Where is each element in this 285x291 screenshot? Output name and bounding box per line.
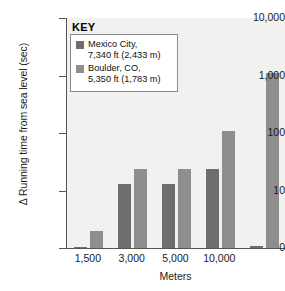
x-tick-label: 3,000 — [119, 252, 145, 264]
legend-item-boulder: Boulder, CO, 5,350 ft (1,783 m) — [76, 63, 173, 84]
x-axis-title: Meters — [66, 270, 285, 282]
y-tick-label: 100 — [231, 126, 285, 138]
y-tick-label: 10 — [231, 184, 285, 196]
y-tick-mark — [59, 248, 66, 249]
legend-item-mexico-city: Mexico City, 7,340 ft (2,433 m) — [76, 39, 173, 60]
bar — [266, 73, 279, 248]
legend: Mexico City, 7,340 ft (2,433 m) Boulder,… — [70, 34, 178, 92]
bar — [90, 231, 103, 248]
y-tick-mark — [59, 18, 66, 19]
y-tick-label: 0 — [231, 241, 285, 253]
bar — [118, 184, 131, 248]
legend-label-line2: 5,350 ft (1,783 m) — [88, 74, 161, 84]
legend-title: KEY — [72, 21, 95, 33]
legend-label-line2: 7,340 ft (2,433 m) — [88, 50, 161, 60]
y-tick-label: 1,000 — [231, 69, 285, 81]
legend-swatch-icon-boulder — [76, 65, 84, 73]
x-tick-label: 1,500 — [75, 252, 101, 264]
legend-swatch-icon-mexico-city — [76, 41, 84, 49]
y-tick-label: 10,000 — [231, 11, 285, 23]
bar — [206, 169, 219, 248]
y-tick-mark — [59, 76, 66, 77]
legend-label-boulder: Boulder, CO, 5,350 ft (1,783 m) — [88, 63, 161, 84]
x-tick-label: 5,000 — [162, 252, 188, 264]
y-axis-title: Δ Running time from sea level (sec) — [17, 9, 29, 239]
y-tick-mark — [59, 191, 66, 192]
legend-label-line1: Boulder, CO, — [88, 63, 141, 73]
legend-label-line1: Mexico City, — [88, 39, 137, 49]
y-tick-mark — [59, 133, 66, 134]
legend-label-mexico-city: Mexico City, 7,340 ft (2,433 m) — [88, 39, 161, 60]
bar — [178, 169, 191, 248]
x-tick-label: 10,000 — [203, 252, 235, 264]
bar — [134, 169, 147, 248]
bar-chart: Δ Running time from sea level (sec) 10,0… — [0, 0, 285, 291]
bar — [162, 184, 175, 248]
